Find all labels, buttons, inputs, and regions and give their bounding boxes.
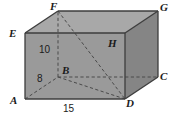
vertex-label-G: G	[160, 2, 168, 13]
vertex-label-A: A	[10, 95, 17, 106]
dimension-label-height: 10	[39, 45, 50, 55]
vertex-label-F: F	[50, 1, 57, 12]
geometry-figure: F G E H B C A D 10 8 15	[0, 0, 180, 119]
vertex-label-D: D	[126, 98, 134, 109]
prism-drawing	[0, 0, 180, 119]
vertex-label-H: H	[108, 38, 117, 49]
vertex-label-B: B	[62, 65, 69, 76]
dimension-label-width: 15	[63, 104, 74, 114]
vertex-label-E: E	[9, 28, 16, 39]
vertex-label-C: C	[160, 71, 167, 82]
dimension-label-depth: 8	[37, 74, 43, 84]
